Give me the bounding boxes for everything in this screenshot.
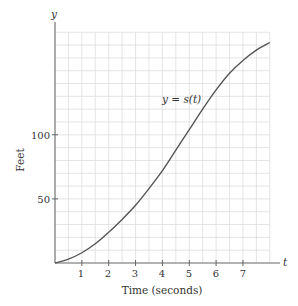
grid [55, 32, 270, 263]
x-tick-label-3: 3 [132, 268, 138, 279]
y-tick-label-50: 50 [37, 194, 50, 205]
x-tick-label-7: 7 [240, 268, 246, 279]
x-axis-var-label: t [283, 256, 288, 268]
y-tick-label-100: 100 [31, 130, 50, 141]
x-tick-label-1: 1 [78, 268, 84, 279]
y-axis-var-label: y [50, 8, 58, 20]
x-axis-title: Time (seconds) [122, 284, 203, 296]
x-tick-label-6: 6 [213, 268, 219, 279]
curve-label: y = s(t) [161, 93, 201, 105]
ticks [52, 135, 243, 266]
x-tick-label-5: 5 [186, 268, 192, 279]
y-axis-title: Feet [14, 148, 26, 172]
x-tick-label-2: 2 [105, 268, 111, 279]
x-tick-label-4: 4 [159, 268, 165, 279]
chart: y t y = s(t) 1 2 3 4 5 6 7 100 50 Time (… [0, 0, 298, 306]
